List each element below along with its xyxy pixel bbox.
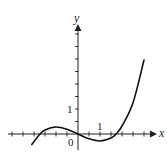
- function-curve: [32, 60, 144, 145]
- y-axis-arrow-icon: [75, 24, 82, 31]
- y-tick-label-1: 1: [67, 104, 73, 115]
- x-tick-label-1: 1: [97, 121, 103, 132]
- function-graph: [0, 0, 167, 155]
- y-axis-label: y: [74, 12, 79, 24]
- x-axis-label: x: [159, 127, 164, 139]
- x-axis-arrow-icon: [150, 131, 157, 138]
- origin-label: 0: [68, 137, 74, 148]
